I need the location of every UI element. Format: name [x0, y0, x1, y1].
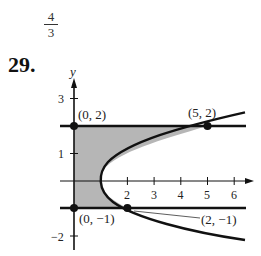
point-0-neg1	[70, 204, 78, 212]
label-point-2-neg1: (2, −1)	[201, 212, 237, 227]
x-tick-2: 2	[124, 188, 130, 202]
graph: y 2 3 4 5 6 3 1 −2 (0, 2) (5, 2) (0, −1)…	[0, 0, 261, 256]
label-point-0-2: (0, 2)	[78, 107, 106, 122]
x-tick-5: 5	[204, 188, 210, 202]
y-tick-neg2: −2	[51, 230, 64, 244]
shaded-region-fill	[74, 126, 208, 208]
x-tick-4: 4	[178, 188, 184, 202]
y-tick-3: 3	[58, 92, 64, 106]
x-tick-3: 3	[151, 188, 157, 202]
x-axis-arrow-icon	[245, 178, 254, 184]
y-tick-1: 1	[58, 147, 64, 161]
point-2-neg1	[123, 204, 131, 212]
point-0-2	[70, 122, 78, 130]
y-axis-arrow-icon	[71, 78, 77, 88]
x-tick-6: 6	[231, 188, 237, 202]
y-axis-label: y	[68, 64, 76, 79]
label-point-5-2: (5, 2)	[188, 105, 216, 120]
point-5-2	[204, 122, 212, 130]
label-point-0-neg1: (0, −1)	[79, 211, 115, 226]
